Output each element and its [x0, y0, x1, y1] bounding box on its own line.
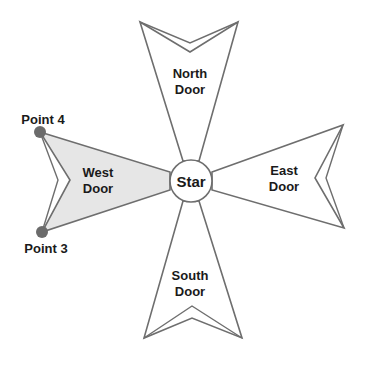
south-door-label-line1: South	[172, 268, 209, 283]
west-door-label-line2: Door	[83, 181, 113, 196]
point-4-label: Point 4	[21, 112, 65, 127]
east-door-label-line2: Door	[269, 179, 299, 194]
point-4-marker	[34, 126, 46, 138]
point-3-label: Point 3	[24, 241, 67, 256]
center-label: Star	[176, 173, 205, 190]
south-door-label-line2: Door	[175, 284, 205, 299]
west-door-label-line1: West	[83, 165, 114, 180]
north-door-label-line1: North	[173, 66, 208, 81]
point-3-marker	[36, 226, 48, 238]
star-door-diagram: Star North Door East Door South Door Wes…	[0, 0, 368, 365]
north-door-label-line2: Door	[175, 82, 205, 97]
east-door-label-line1: East	[270, 163, 298, 178]
